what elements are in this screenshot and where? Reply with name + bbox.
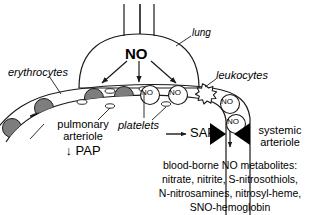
metabolites-caption: blood-borne NO metabolites: nitrate, nit… <box>152 159 308 214</box>
no-diffusion-arrows <box>102 61 176 83</box>
diagram-figure: NO lung erythrocytes leukocytes platelet… <box>0 0 310 215</box>
erythrocytes-label: erythrocytes <box>8 66 68 78</box>
platelets-label: platelets <box>118 119 159 131</box>
systemic-arteriole-line1: systemic <box>251 124 309 136</box>
lung-no-label: NO <box>125 46 148 63</box>
systemic-arteriole-line2: arteriole <box>251 136 309 148</box>
systemic-arteriole-label: systemic arteriole <box>251 124 309 149</box>
no-circle-label-3: NO <box>221 98 233 107</box>
no-circle-label-1: NO <box>141 89 153 98</box>
lung-label: lung <box>192 27 211 38</box>
metabolites-line-4: SNO-hemoglobin <box>152 201 308 215</box>
pulmonary-arteriole-line1: pulmonary <box>44 118 122 130</box>
lung-leader-line <box>176 36 191 46</box>
no-circle-label-2: NO <box>169 89 181 98</box>
trachea-group <box>124 4 154 36</box>
sap-label: SAP <box>190 126 216 141</box>
metabolites-line-3: N-nitrosamines, nitrosyl-heme, <box>152 187 308 201</box>
leukocytes-label: leukocytes <box>216 69 268 81</box>
pulmonary-arteriole-line2: arteriole <box>44 130 122 142</box>
no-circle-label-4: NO <box>227 118 239 127</box>
metabolites-line-1: blood-borne NO metabolites: <box>152 159 308 173</box>
pulmonary-arteriole-label: pulmonary arteriole ↓ PAP <box>44 118 122 158</box>
metabolites-line-2: nitrate, nitrite, S-nitrosothiols, <box>152 173 308 187</box>
pap-value: ↓ PAP <box>44 144 122 159</box>
